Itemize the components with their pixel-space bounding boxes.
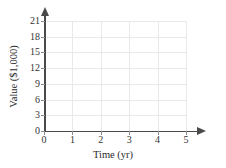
x-axis-line: [44, 131, 198, 133]
y-axis-tick-label: 18: [26, 32, 40, 42]
x-axis-tick-label: 5: [176, 135, 196, 145]
plot-area: [44, 21, 186, 131]
x-axis-tickmark: [101, 131, 102, 135]
x-axis-title: Time (yr): [0, 149, 226, 160]
gridline-vertical: [158, 21, 159, 131]
x-axis-tick-label: 2: [91, 135, 111, 145]
x-axis-tick-label: 3: [119, 135, 139, 145]
y-axis-tick-label: 15: [26, 47, 40, 57]
x-axis-tick-labels: 012345: [0, 135, 226, 149]
gridline-vertical: [101, 21, 102, 131]
gridline-horizontal: [44, 100, 186, 101]
gridline-horizontal: [44, 68, 186, 69]
chart-container: 036912151821 012345 Time (yr) Value ($1,…: [0, 0, 226, 168]
x-axis-tick-label: 1: [62, 135, 82, 145]
gridline-horizontal: [44, 37, 186, 38]
y-axis-tickmark: [41, 68, 45, 69]
x-axis-tickmark: [158, 131, 159, 135]
gridline-vertical: [72, 21, 73, 131]
x-axis-tick-label: 0: [34, 135, 54, 145]
gridline-vertical: [186, 21, 187, 131]
y-axis-tickmark: [41, 37, 45, 38]
x-axis-tickmark: [44, 131, 45, 135]
y-axis-tick-label: 3: [26, 110, 40, 120]
y-axis-tickmark: [41, 84, 45, 85]
x-axis-tickmark: [129, 131, 130, 135]
gridline-vertical: [129, 21, 130, 131]
y-axis-tickmark: [41, 52, 45, 53]
gridline-horizontal: [44, 21, 186, 22]
y-axis-title: Value ($1,000): [8, 17, 19, 137]
gridline-horizontal: [44, 84, 186, 85]
y-axis-arrow-icon: [41, 7, 49, 16]
y-axis-tick-label: 6: [26, 95, 40, 105]
y-axis-tickmark: [41, 21, 45, 22]
x-axis-tickmark: [186, 131, 187, 135]
x-axis-tickmark: [72, 131, 73, 135]
y-axis-tick-label: 12: [26, 63, 40, 73]
y-axis-tick-label: 21: [26, 16, 40, 26]
gridline-horizontal: [44, 52, 186, 53]
y-axis-tickmark: [41, 100, 45, 101]
y-axis-tick-label: 9: [26, 79, 40, 89]
x-axis-arrow-icon: [197, 127, 206, 135]
x-axis-tick-label: 4: [148, 135, 168, 145]
gridline-horizontal: [44, 115, 186, 116]
y-axis-tickmark: [41, 115, 45, 116]
